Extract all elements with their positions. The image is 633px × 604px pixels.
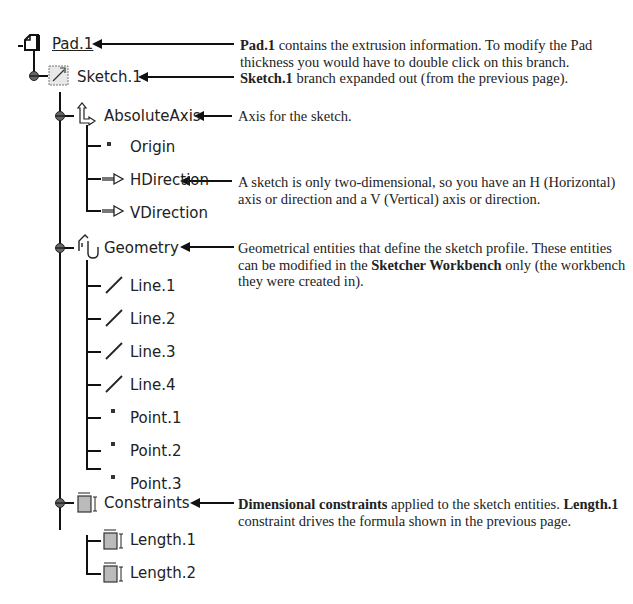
- annotation-constraints: Dimensional constraints applied to the s…: [238, 496, 630, 529]
- line-icon: [104, 274, 124, 296]
- sketch-icon[interactable]: [47, 64, 71, 88]
- tree-node-sketch[interactable]: Sketch.1: [77, 68, 142, 86]
- tree-node-line-3[interactable]: Line.3: [130, 343, 176, 361]
- tree-node-length-2[interactable]: Length.2: [130, 564, 196, 582]
- annotation-geometry-bold: Sketcher Workbench: [371, 257, 501, 273]
- annotation-constraints-text1: applied to the sketch entities.: [387, 496, 563, 512]
- annotation-pad-bold: Pad.1: [240, 37, 275, 53]
- tree-node-geometry[interactable]: Geometry: [104, 239, 179, 257]
- constraint-icon[interactable]: [102, 527, 126, 553]
- tree-node-pad[interactable]: Pad.1: [52, 35, 93, 53]
- point-icon: [104, 139, 116, 151]
- tree-node-line-1[interactable]: Line.1: [130, 277, 176, 295]
- tree-node-line-2[interactable]: Line.2: [130, 310, 176, 328]
- geometry-icon[interactable]: [76, 233, 100, 261]
- point-icon: [108, 472, 120, 484]
- tree-node-point-2[interactable]: Point.2: [130, 442, 182, 460]
- tree-node-length-1[interactable]: Length.1: [130, 531, 196, 549]
- tree-node-hdirection[interactable]: HDirection: [130, 171, 209, 189]
- line-icon: [104, 307, 124, 329]
- point-icon: [108, 406, 120, 418]
- annotation-sketch-bold: Sketch.1: [240, 70, 293, 86]
- line-icon: [104, 340, 124, 362]
- point-icon: [108, 439, 120, 451]
- tree-node-absolute-axis[interactable]: AbsoluteAxis: [104, 107, 201, 125]
- constraint-icon[interactable]: [76, 490, 100, 516]
- annotation-pad: Pad.1 contains the extrusion information…: [240, 37, 625, 87]
- annotation-pad-text: contains the extrusion information. To m…: [240, 37, 592, 70]
- annotation-sketch-text: branch expanded out (from the previous p…: [293, 70, 568, 86]
- annotation-constraints-bold1: Dimensional constraints: [238, 496, 387, 512]
- line-icon: [104, 373, 124, 395]
- axis-icon[interactable]: [75, 102, 99, 126]
- pad-icon: [18, 32, 44, 54]
- annotation-axis: Axis for the sketch.: [238, 108, 623, 125]
- annotation-direction: A sketch is only two-dimensional, so you…: [238, 174, 628, 207]
- tree-node-origin[interactable]: Origin: [130, 138, 175, 156]
- direction-arrow-icon: [101, 204, 127, 218]
- tree-node-constraints[interactable]: Constraints: [104, 494, 190, 512]
- constraint-icon[interactable]: [102, 560, 126, 586]
- direction-arrow-icon: [101, 172, 127, 186]
- tree-node-point-3[interactable]: Point.3: [130, 475, 182, 493]
- tree-node-point-1[interactable]: Point.1: [130, 409, 182, 427]
- annotation-constraints-text2: constraint drives the formula shown in t…: [238, 513, 571, 529]
- tree-node-line-4[interactable]: Line.4: [130, 376, 176, 394]
- annotation-geometry: Geometrical entities that define the ske…: [238, 240, 628, 290]
- annotation-constraints-bold2: Length.1: [563, 496, 618, 512]
- tree-node-vdirection[interactable]: VDirection: [130, 204, 208, 222]
